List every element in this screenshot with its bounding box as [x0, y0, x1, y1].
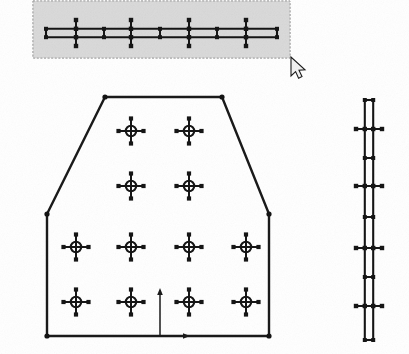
drawing-canvas[interactable]	[0, 0, 409, 354]
paper-grain-overlay	[0, 0, 409, 354]
